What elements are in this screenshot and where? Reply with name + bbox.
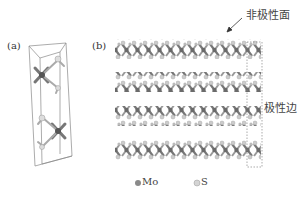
basal-plane-annotation: 非极性面 [246,6,290,22]
structure-drawing [0,0,305,200]
legend-mo: Mo [142,176,158,187]
arrow-icon [227,18,242,32]
legend-mo-label: Mo [142,176,158,187]
mo-s-unit-bottom [38,118,65,146]
legend-s: S [201,176,208,187]
mos2-layer-4 [115,140,261,160]
mo-legend-dot [135,180,141,186]
unit-cell-box [29,43,72,166]
edge-annotation: 极性边 [264,99,297,115]
s-legend-dot [194,180,200,186]
panel-b-label: (b) [92,40,106,51]
mos2-layer-1 [115,39,261,59]
mos2-layer-3 [115,106,261,126]
legend-s-label: S [201,176,208,187]
mos2-layer-2 [115,72,261,92]
